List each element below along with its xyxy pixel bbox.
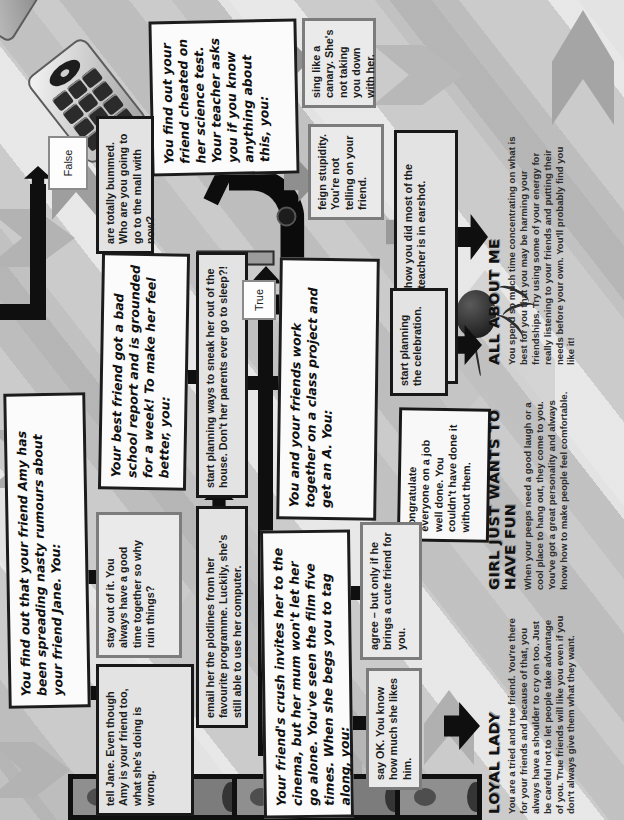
question-cheated: You find out your friend cheated on her … — [148, 18, 299, 176]
answer-tell-jane: tell Jane. Even though Amy is your frien… — [96, 664, 194, 816]
false-label: False — [48, 136, 88, 190]
answer-sneak-out: start planning ways to sneak her out of … — [196, 252, 248, 498]
answer-stay-out: stay out of it. You always have a good t… — [96, 512, 182, 658]
connector-pipe — [30, 184, 46, 320]
result-heading-loyal-lady: LOYAL LADY — [486, 609, 502, 814]
result-body-girl-fun: When your peeps need a good laugh or a c… — [522, 390, 570, 590]
result-all-about-me: ALL ABOUT ME You spend so much time conc… — [486, 130, 577, 365]
answer-agree: agree – but only if he brings a cute fri… — [360, 522, 422, 660]
result-girl-fun: GIRL JUST WANTS TO HAVE FUN When your pe… — [486, 390, 570, 590]
question-class-project: You and your friends work together on a … — [276, 257, 380, 520]
result-heading-all-about-me: ALL ABOUT ME — [486, 130, 502, 365]
result-body-loyal-lady: You are a tried and true friend. You're … — [506, 609, 577, 814]
microscope-knob — [277, 207, 297, 227]
result-heading-girl-fun: GIRL JUST WANTS TO HAVE FUN — [486, 390, 518, 590]
result-body-all-about-me: You spend so much time concentrating on … — [506, 130, 577, 365]
answer-celebration: start planning the celebration. — [390, 288, 448, 396]
answer-sing-canary: sing like a canary. She's not taking you… — [302, 18, 376, 108]
phone-screen — [0, 0, 47, 44]
question-grounded: Your best friend got a bad school report… — [98, 252, 190, 490]
question-rumours: You find out that your friend Amy has be… — [3, 392, 90, 708]
magazine-quiz-page: You find out that your friend Amy has be… — [0, 0, 624, 820]
question-cinema: Your friend's crush invites her to the c… — [260, 529, 354, 818]
answer-email-plotlines: email her the plotlines from her favouri… — [196, 506, 248, 728]
true-label: True — [242, 280, 276, 320]
rotated-quiz-canvas: You find out that your friend Amy has be… — [0, 0, 624, 820]
connector-pipe — [248, 376, 278, 390]
result-loyal-lady: LOYAL LADY You are a tried and true frie… — [486, 609, 577, 814]
answer-feign-stupidity: feign stupidity. You're not telling on y… — [308, 124, 384, 220]
answer-totally-bummed: are totally bummed. Who are you going to… — [96, 116, 154, 254]
answer-say-ok: say OK. You know how much she likes him. — [366, 668, 422, 790]
